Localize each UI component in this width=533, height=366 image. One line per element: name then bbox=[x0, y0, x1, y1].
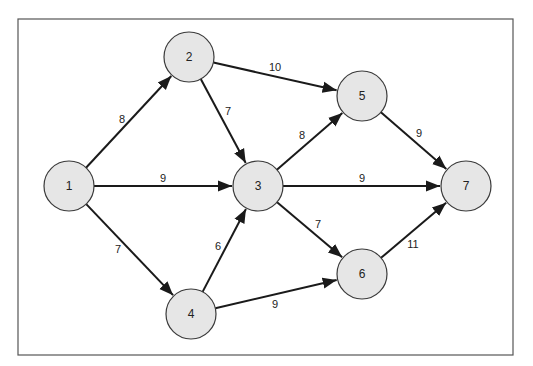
node-label: 6 bbox=[359, 267, 366, 281]
edge-5-to-7 bbox=[381, 112, 446, 169]
edge-weight-2-3: 7 bbox=[225, 105, 231, 117]
node-label: 5 bbox=[359, 89, 366, 103]
edge-weight-4-3: 6 bbox=[215, 240, 221, 252]
node-6: 6 bbox=[337, 249, 387, 299]
edge-weight-2-5: 10 bbox=[269, 61, 281, 73]
edge-weight-3-6: 7 bbox=[315, 218, 321, 230]
edge-weight-5-7: 9 bbox=[416, 127, 422, 139]
edge-weight-1-4: 7 bbox=[115, 243, 121, 255]
node-4: 4 bbox=[166, 289, 216, 339]
edge-weight-3-5: 8 bbox=[299, 129, 305, 141]
node-1: 1 bbox=[44, 161, 94, 211]
node-label: 7 bbox=[463, 179, 470, 193]
node-label: 1 bbox=[66, 179, 73, 193]
edge-3-to-6 bbox=[277, 202, 342, 257]
edge-weight-3-7: 9 bbox=[359, 172, 365, 184]
edge-1-to-2 bbox=[86, 76, 171, 168]
node-3: 3 bbox=[233, 161, 283, 211]
network-diagram: 89771068979911 1234567 bbox=[0, 0, 533, 366]
edge-2-to-3 bbox=[201, 79, 246, 163]
node-label: 3 bbox=[255, 179, 262, 193]
edge-weight-6-7: 11 bbox=[407, 238, 418, 250]
node-5: 5 bbox=[337, 71, 387, 121]
node-label: 2 bbox=[186, 50, 193, 64]
edge-1-to-4 bbox=[86, 204, 173, 295]
edge-4-to-3 bbox=[203, 209, 246, 292]
edge-weight-4-6: 9 bbox=[272, 298, 278, 310]
edge-weight-1-3: 9 bbox=[160, 172, 166, 184]
node-7: 7 bbox=[441, 161, 491, 211]
node-2: 2 bbox=[164, 32, 214, 82]
edge-weight-1-2: 8 bbox=[119, 113, 125, 125]
node-label: 4 bbox=[188, 307, 195, 321]
edge-3-to-5 bbox=[277, 113, 342, 170]
